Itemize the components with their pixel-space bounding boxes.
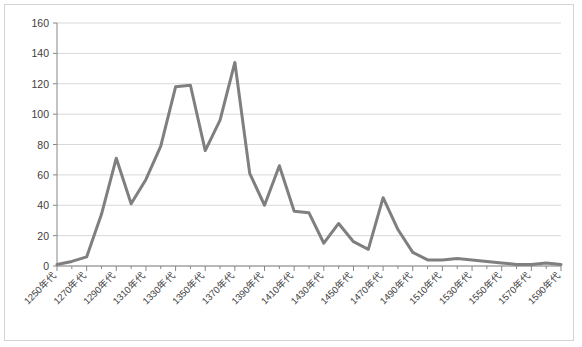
y-axis-label: 60 <box>37 169 49 181</box>
y-axis-label: 20 <box>37 230 49 242</box>
y-axis-label: 0 <box>43 260 49 272</box>
y-axis-label: 140 <box>31 47 49 59</box>
y-axis-label: 120 <box>31 78 49 90</box>
y-axis-label: 100 <box>31 108 49 120</box>
y-axis-label: 40 <box>37 199 49 211</box>
y-axis-label: 160 <box>31 17 49 29</box>
line-chart[interactable]: 020406080100120140160 1250年代1270年代1290年代… <box>5 5 573 340</box>
y-axis-label: 80 <box>37 139 49 151</box>
chart-frame: 020406080100120140160 1250年代1270年代1290年代… <box>4 4 574 341</box>
